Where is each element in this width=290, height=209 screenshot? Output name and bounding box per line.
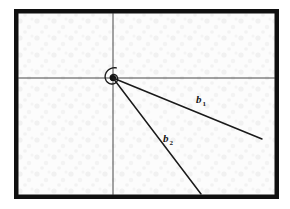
label-b1-base: b — [196, 93, 202, 105]
label-b1-subscript: 1 — [203, 100, 207, 108]
figure-plate — [18, 13, 275, 195]
label-b2-base: b — [163, 132, 169, 144]
label-b2-subscript: 2 — [170, 139, 174, 147]
figure-container: b 1 b 2 — [0, 0, 290, 209]
spiral-figure: b 1 b 2 — [0, 0, 290, 209]
